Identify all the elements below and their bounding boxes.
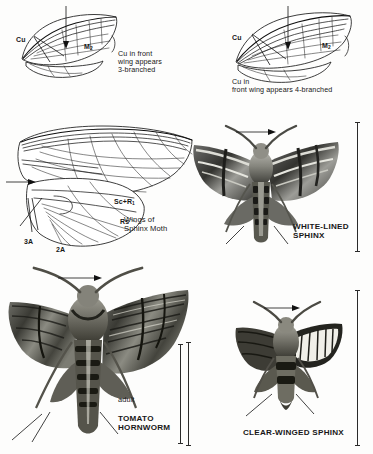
scale-bar-tomato-hornworm-a bbox=[180, 344, 181, 444]
scale-bar-tomato-hornworm-b bbox=[188, 342, 189, 446]
vein-label-sc-r1: Sc+R1 bbox=[114, 190, 135, 206]
vein-label-cu-2: Cu bbox=[232, 26, 242, 42]
wing-diagram-svg bbox=[4, 4, 122, 84]
wing-venation-diagram-4-branched: Cu M2 bbox=[214, 4, 364, 86]
label-white-lined-sphinx: WHITE-LINED SPHINX bbox=[293, 222, 361, 240]
scale-bar-clear-winged-sphinx bbox=[357, 290, 358, 446]
vein-label-3a: 3A bbox=[24, 238, 33, 246]
label-adult-stage: adult bbox=[118, 396, 135, 404]
label-tomato-hornworm: TOMATO HORNWORM bbox=[118, 414, 198, 432]
vein-label-2a: 2A bbox=[56, 246, 65, 254]
vein-label-m2-2: M2 bbox=[322, 34, 331, 50]
caption-cu-3-branched: Cu in front wing appears 3-branched bbox=[118, 50, 194, 74]
caption-wings-of-sphinx-moth: Wings of Sphinx Moth bbox=[124, 216, 196, 233]
label-clear-winged-sphinx: CLEAR-WINGED SPHINX bbox=[243, 428, 363, 437]
scale-bar-white-lined-sphinx bbox=[357, 122, 358, 252]
vein-label-cu: Cu bbox=[16, 28, 26, 44]
clear-winged-sphinx-svg bbox=[224, 298, 348, 422]
specimen-clear-winged-sphinx bbox=[224, 298, 348, 422]
caption-cu-4-branched: Cu in front wing appears 4-branched bbox=[232, 78, 373, 94]
illustration-plate: Cu M2 Cu in front wing appears 3-branche… bbox=[0, 0, 373, 454]
vein-label-m2: M2 bbox=[84, 35, 93, 51]
wing-diagram-svg-2 bbox=[214, 4, 364, 86]
wing-venation-diagram-3-branched: Cu M2 bbox=[4, 4, 122, 84]
